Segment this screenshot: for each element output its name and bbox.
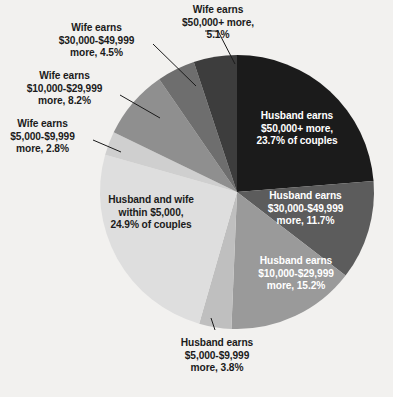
slice-label-husband-10000-29999: Husband earns $10,000-$29,999 more, 15.2… <box>236 255 356 293</box>
slice-label-wife-30000-49999: Wife earns $30,000-$49,999 more, 4.5% <box>44 22 149 60</box>
slice-label-within-5000: Husband and wife within $5,000, 24.9% of… <box>91 194 211 232</box>
slice-label-husband-5000-9999: Husband earns $5,000-$9,999 more, 3.8% <box>162 337 272 375</box>
pie-chart-figure: Wife earns $50,000+ more, 5.1% Wife earn… <box>0 0 393 397</box>
slice-label-husband-30000-49999: Husband earns $30,000-$49,999 more, 11.7… <box>243 190 368 228</box>
slice-label-wife-5000-9999: Wife earns $5,000-$9,999 more, 2.8% <box>0 118 90 156</box>
slice-label-wife-50000-plus: Wife earns $50,000+ more, 5.1% <box>168 4 268 42</box>
slice-label-husband-50000-plus: Husband earns $50,000+ more, 23.7% of co… <box>232 110 362 148</box>
slice-label-wife-10000-29999: Wife earns $10,000-$29,999 more, 8.2% <box>12 70 117 108</box>
